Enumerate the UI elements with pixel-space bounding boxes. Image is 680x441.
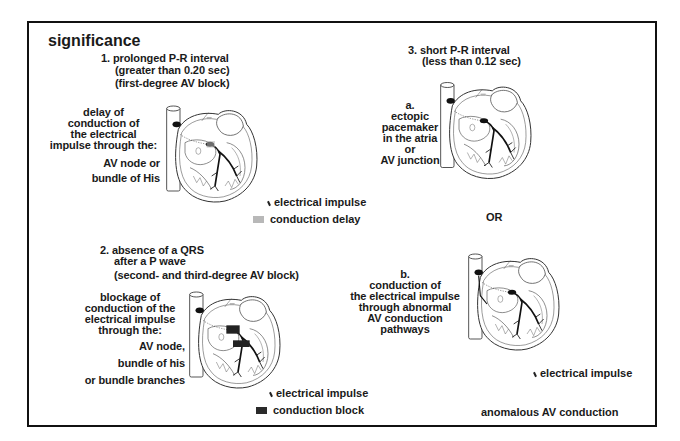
- s2-description: blockage of conduction of the electrical…: [80, 292, 180, 336]
- s3-legend-impulse: electrical impulse: [534, 367, 632, 379]
- s3-or-separator: OR: [486, 212, 502, 223]
- s3-caption-label: anomalous AV conduction: [481, 406, 619, 418]
- s1-legend-delay: conduction delay: [253, 213, 360, 225]
- heart-illustration-3b: [462, 250, 562, 358]
- s1-heading-line-3: (first-degree AV block): [101, 78, 229, 89]
- s2-site-bundle-of-his: bundle of his: [80, 355, 185, 372]
- s3-option-b: b. conduction of the electrical impulse …: [340, 269, 470, 335]
- s1-legend-impulse: electrical impulse: [268, 196, 366, 208]
- s1-legend-impulse-label: electrical impulse: [274, 196, 366, 208]
- s1-heading-line-1: 1. prolonged P-R interval: [101, 53, 229, 64]
- s2-heading-line-3: (second- and third-degree AV block): [100, 270, 299, 281]
- s2-legend-impulse: electrical impulse: [270, 387, 368, 399]
- s1-heading-line-2: (greater than 0.20 sec): [101, 65, 229, 76]
- s2-site-av-node: AV node,: [80, 338, 185, 355]
- s3-legend-impulse-label: electrical impulse: [540, 367, 632, 379]
- heart-illustration-2: [183, 288, 283, 396]
- s2-sites: AV node, bundle of his or bundle branche…: [80, 338, 185, 389]
- s1-sites: AV node or bundle of His: [80, 156, 160, 186]
- s2-legend-block: conduction block: [256, 404, 364, 416]
- impulse-tick-icon: [269, 391, 273, 396]
- s2-desc-line-4: through the:: [80, 325, 180, 336]
- s1-site-av-node: AV node or: [80, 156, 160, 171]
- s3-legend-caption: anomalous AV conduction: [481, 406, 619, 418]
- s3-option-b-line-6: pathways: [340, 324, 470, 335]
- s1-legend-delay-label: conduction delay: [270, 213, 360, 225]
- heart-illustration-1: [160, 102, 260, 210]
- s2-heading-line-2: after a P wave: [100, 256, 299, 267]
- s2-legend-block-label: conduction block: [273, 404, 364, 416]
- s2-legend-impulse-label: electrical impulse: [276, 387, 368, 399]
- s3-heading-line-2: (less than 0.12 sec): [408, 56, 521, 67]
- s2-heading: 2. absence of a QRS after a P wave (seco…: [100, 245, 299, 281]
- impulse-tick-icon: [267, 200, 271, 205]
- heart-illustration-3a: [434, 80, 534, 185]
- s2-site-bundle-branches: or bundle branches: [80, 372, 185, 389]
- s1-site-bundle-of-his: bundle of His: [80, 171, 160, 186]
- impulse-tick-icon: [533, 371, 537, 376]
- conduction-delay-swatch-icon: [253, 216, 264, 223]
- s1-heading: 1. prolonged P-R interval (greater than …: [101, 53, 229, 89]
- page-title: significance: [48, 32, 140, 50]
- s3-heading: 3. short P-R interval (less than 0.12 se…: [408, 45, 521, 67]
- s1-desc-line-4: impulse through the:: [46, 140, 161, 151]
- s1-description: delay of conduction of the electrical im…: [46, 107, 161, 151]
- conduction-block-swatch-icon: [256, 407, 267, 414]
